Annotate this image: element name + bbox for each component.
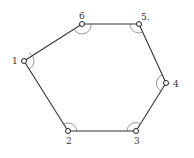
vertex-2	[66, 129, 71, 134]
vertex-label-5: 5.	[141, 12, 150, 22]
angle-arc-4	[157, 75, 162, 91]
vertex-label-2: 2	[66, 136, 72, 146]
vertex-1	[22, 59, 27, 64]
vertex-3	[134, 129, 139, 134]
hexagon-diagram: 1 2 3 4 5. 6	[0, 0, 194, 158]
vertex-5	[137, 22, 142, 27]
vertex-label-1: 1	[12, 56, 18, 66]
hexagon-outline	[24, 24, 166, 131]
vertex-6	[80, 22, 85, 27]
vertex-label-3: 3	[134, 136, 140, 146]
vertex-label-4: 4	[173, 79, 179, 89]
vertex-label-6: 6	[79, 11, 85, 21]
vertex-4	[164, 81, 169, 86]
